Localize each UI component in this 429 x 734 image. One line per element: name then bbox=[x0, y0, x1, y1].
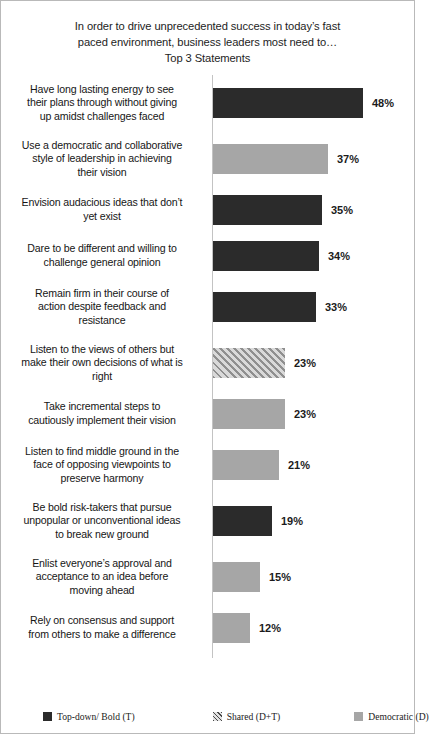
bar[interactable] bbox=[213, 613, 250, 643]
bar-track: 21% bbox=[212, 437, 414, 493]
bar-row: Have long lasting energy to seetheir pla… bbox=[1, 75, 414, 131]
bar-category-label: Enlist everyone’s approval andacceptance… bbox=[1, 557, 212, 598]
bar-category-label: Rely on consensus and supportfrom others… bbox=[1, 614, 212, 641]
bar-category-label-line: make their own decisions of what is bbox=[1, 356, 203, 370]
bar[interactable] bbox=[213, 195, 322, 225]
bar-category-label-line: unpopular or unconventional ideas bbox=[1, 514, 203, 528]
bar-row: Remain firm in their course ofaction des… bbox=[1, 279, 414, 335]
bar-category-label-line: acceptance to an idea before bbox=[1, 570, 203, 584]
bar-value-label: 34% bbox=[328, 250, 350, 262]
bar-row: Envision audacious ideas that don’tyet e… bbox=[1, 187, 414, 233]
bar-track: 48% bbox=[212, 75, 414, 131]
bar-row: Use a democratic and collaborativestyle … bbox=[1, 131, 414, 187]
bar-value-label: 12% bbox=[259, 622, 281, 634]
bar-track: 35% bbox=[212, 187, 414, 233]
bar-category-label: Remain firm in their course ofaction des… bbox=[1, 287, 212, 328]
bar-category-label: Be bold risk-takers that pursueunpopular… bbox=[1, 501, 212, 542]
bar-track: 12% bbox=[212, 605, 414, 651]
bar-track: 33% bbox=[212, 279, 414, 335]
legend-label: Top-down/ Bold (T) bbox=[57, 711, 135, 722]
bar-category-label-line: Have long lasting energy to see bbox=[1, 83, 203, 97]
chart-title: In order to drive unprecedented success … bbox=[1, 1, 414, 66]
bar-row: Listen to the views of others butmake th… bbox=[1, 335, 414, 391]
bar-track: 23% bbox=[212, 335, 414, 391]
chart-title-line-1: In order to drive unprecedented success … bbox=[31, 18, 384, 34]
bar[interactable] bbox=[213, 144, 328, 174]
bar-category-label-line: face of opposing viewpoints to bbox=[1, 458, 203, 472]
bar-category-label-line: their vision bbox=[1, 166, 203, 180]
bar-category-label: Dare to be different and willing tochall… bbox=[1, 242, 212, 269]
bar-category-label-line: up amidst challenges faced bbox=[1, 110, 203, 124]
legend-swatch-gray bbox=[354, 712, 363, 721]
legend-item[interactable]: Top-down/ Bold (T) bbox=[43, 711, 135, 722]
bar-track: 23% bbox=[212, 391, 414, 437]
bar-category-label-line: right bbox=[1, 370, 203, 384]
bar-value-label: 33% bbox=[325, 301, 347, 313]
bar-row: Enlist everyone’s approval andacceptance… bbox=[1, 549, 414, 605]
bar-value-label: 23% bbox=[294, 357, 316, 369]
legend-swatch-dark bbox=[43, 712, 52, 721]
bar[interactable] bbox=[213, 241, 319, 271]
bar[interactable] bbox=[213, 292, 316, 322]
bar-value-label: 15% bbox=[269, 571, 291, 583]
bar-category-label-line: Take incremental steps to bbox=[1, 400, 203, 414]
bar-category-label-line: Be bold risk-takers that pursue bbox=[1, 501, 203, 515]
bar-value-label: 35% bbox=[331, 204, 353, 216]
chart-title-line-2: paced environment, business leaders most… bbox=[31, 34, 384, 50]
bar-value-label: 48% bbox=[372, 97, 394, 109]
bar-category-label-line: Dare to be different and willing to bbox=[1, 242, 203, 256]
bar-category-label: Envision audacious ideas that don’tyet e… bbox=[1, 196, 212, 223]
bar-category-label-line: from others to make a difference bbox=[1, 628, 203, 642]
legend-swatch-hatch bbox=[213, 712, 222, 721]
bar-value-label: 23% bbox=[294, 408, 316, 420]
bar-category-label: Use a democratic and collaborativestyle … bbox=[1, 139, 212, 180]
bar-category-label-line: resistance bbox=[1, 314, 203, 328]
legend-item[interactable]: Shared (D+T) bbox=[213, 711, 281, 722]
bar[interactable] bbox=[213, 399, 285, 429]
bar-category-label-line: Listen to the views of others but bbox=[1, 343, 203, 357]
bar-category-label: Listen to find middle ground in theface … bbox=[1, 445, 212, 486]
bar-category-label-line: action despite feedback and bbox=[1, 300, 203, 314]
bar-category-label-line: cautiously implement their vision bbox=[1, 414, 203, 428]
bar[interactable] bbox=[213, 450, 279, 480]
bar-row: Listen to find middle ground in theface … bbox=[1, 437, 414, 493]
bar-value-label: 21% bbox=[288, 459, 310, 471]
bar-category-label-line: Rely on consensus and support bbox=[1, 614, 203, 628]
bars-container: Have long lasting energy to seetheir pla… bbox=[1, 75, 414, 651]
bar-category-label-line: Enlist everyone’s approval and bbox=[1, 557, 203, 571]
legend-label: Democratic (D) bbox=[368, 711, 428, 722]
bar[interactable] bbox=[213, 562, 260, 592]
bar-row: Dare to be different and willing tochall… bbox=[1, 233, 414, 279]
bar-track: 34% bbox=[212, 233, 414, 279]
chart-legend: Top-down/ Bold (T)Shared (D+T)Democratic… bbox=[1, 705, 414, 727]
bar-category-label: Listen to the views of others butmake th… bbox=[1, 343, 212, 384]
bar-value-label: 37% bbox=[337, 153, 359, 165]
bar-category-label-line: style of leadership in achieving bbox=[1, 152, 203, 166]
bar-track: 37% bbox=[212, 131, 414, 187]
bar-row: Rely on consensus and supportfrom others… bbox=[1, 605, 414, 651]
bar-category-label-line: challenge general opinion bbox=[1, 256, 203, 270]
bar-category-label: Have long lasting energy to seetheir pla… bbox=[1, 83, 212, 124]
legend-item[interactable]: Democratic (D) bbox=[354, 711, 428, 722]
bar[interactable] bbox=[213, 348, 285, 378]
chart-title-line-3: Top 3 Statements bbox=[31, 50, 384, 66]
legend-label: Shared (D+T) bbox=[227, 711, 281, 722]
bar-category-label: Take incremental steps tocautiously impl… bbox=[1, 400, 212, 427]
bar-category-label-line: yet exist bbox=[1, 210, 203, 224]
bar-category-label-line: preserve harmony bbox=[1, 472, 203, 486]
bar-category-label-line: to break new ground bbox=[1, 528, 203, 542]
bar-row: Be bold risk-takers that pursueunpopular… bbox=[1, 493, 414, 549]
bar-category-label-line: Listen to find middle ground in the bbox=[1, 445, 203, 459]
bar-category-label-line: Envision audacious ideas that don’t bbox=[1, 196, 203, 210]
bar-category-label-line: Use a democratic and collaborative bbox=[1, 139, 203, 153]
bar-track: 15% bbox=[212, 549, 414, 605]
bar-value-label: 19% bbox=[281, 515, 303, 527]
bar-category-label-line: Remain firm in their course of bbox=[1, 287, 203, 301]
bar[interactable] bbox=[213, 506, 272, 536]
bar[interactable] bbox=[213, 88, 363, 118]
plot-area: Have long lasting energy to seetheir pla… bbox=[1, 75, 414, 663]
bar-row: Take incremental steps tocautiously impl… bbox=[1, 391, 414, 437]
bar-track: 19% bbox=[212, 493, 414, 549]
bar-category-label-line: moving ahead bbox=[1, 584, 203, 598]
